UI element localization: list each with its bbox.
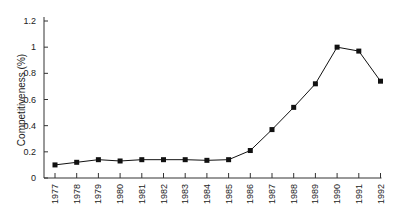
data-point-marker: [139, 157, 144, 162]
data-point-marker: [248, 148, 253, 153]
y-tick-label: 0: [31, 173, 36, 183]
data-point-marker: [270, 127, 275, 132]
data-point-marker: [291, 105, 296, 110]
data-point-marker: [378, 79, 383, 84]
x-tick-label: 1991: [354, 184, 364, 204]
x-tick-label: 1985: [224, 184, 234, 204]
x-tick-label: 1983: [180, 184, 190, 204]
y-tick-label: 0.2: [23, 147, 36, 157]
x-tick-label: 1992: [376, 184, 386, 204]
x-tick-label: 1990: [332, 184, 342, 204]
y-axis-title: Competitiveness (%): [16, 54, 27, 146]
data-point-marker: [53, 162, 58, 167]
data-point-marker: [161, 157, 166, 162]
data-point-marker: [226, 157, 231, 162]
x-tick-label: 1977: [50, 184, 60, 204]
data-point-marker: [204, 158, 209, 163]
data-point-marker: [118, 158, 123, 163]
x-tick-label: 1988: [289, 184, 299, 204]
x-tick-label: 1980: [115, 184, 125, 204]
x-tick-label: 1978: [72, 184, 82, 204]
x-tick-label: 1987: [267, 184, 277, 204]
y-axis: 00.20.40.60.811.2: [23, 16, 48, 183]
line-chart: 00.20.40.60.811.2 1977197819791980198119…: [0, 0, 404, 221]
data-point-marker: [335, 45, 340, 50]
data-point-marker: [183, 157, 188, 162]
series-line: [55, 47, 381, 165]
data-point-marker: [96, 157, 101, 162]
x-axis: 1977197819791980198119821983198419851986…: [44, 173, 386, 204]
x-tick-label: 1979: [93, 184, 103, 204]
x-tick-label: 1982: [159, 184, 169, 204]
y-tick-label: 1: [31, 42, 36, 52]
data-point-marker: [313, 81, 318, 86]
x-tick-label: 1984: [202, 184, 212, 204]
x-tick-label: 1981: [137, 184, 147, 204]
x-tick-label: 1989: [310, 184, 320, 204]
y-tick-label: 1.2: [23, 16, 36, 26]
data-point-marker: [74, 160, 79, 165]
x-tick-label: 1986: [245, 184, 255, 204]
data-point-marker: [356, 49, 361, 54]
data-series: [53, 45, 384, 168]
